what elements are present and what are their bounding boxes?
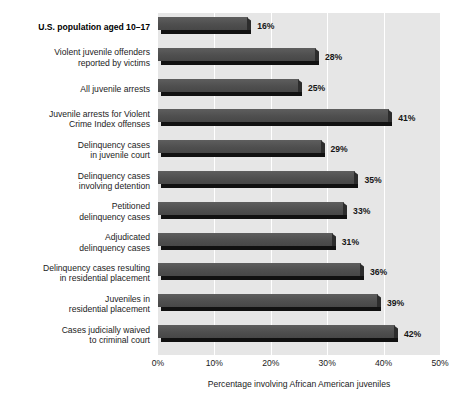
x-tick-label: 30%: [319, 358, 336, 368]
x-tick-label: 40%: [375, 358, 392, 368]
category-label: Adjudicated delinquency cases: [0, 232, 150, 253]
bar-face: [158, 109, 389, 122]
bar-row: All juvenile arrests25%: [0, 75, 474, 105]
category-label: Cases judicially waived to criminal cour…: [0, 325, 150, 346]
bar-chart: U.S. population aged 10–1716%Violent juv…: [0, 0, 474, 412]
bar-row: Cases judicially waived to criminal cour…: [0, 321, 474, 351]
bar-value-label: 41%: [398, 113, 415, 123]
bar-row: Juvenile arrests for Violent Crime Index…: [0, 105, 474, 135]
bar-face: [158, 171, 355, 184]
bar-face: [158, 79, 299, 92]
bar-row: Adjudicated delinquency cases31%: [0, 229, 474, 259]
bar-face: [158, 263, 361, 276]
x-tick-label: 20%: [262, 358, 279, 368]
bar-value-label: 31%: [342, 237, 359, 247]
bar-shadow: [161, 153, 325, 157]
bar: [158, 79, 299, 96]
bar-face: [158, 202, 344, 215]
bar-face: [158, 294, 378, 307]
bar-value-label: 16%: [257, 21, 274, 31]
bar-value-label: 42%: [404, 329, 421, 339]
bar: [158, 48, 316, 65]
bar: [158, 17, 248, 34]
bar: [158, 294, 378, 311]
bar-row: Juveniles in residential placement39%: [0, 290, 474, 320]
bar-row: Delinquency cases involving detention35%: [0, 167, 474, 197]
bar-shadow: [161, 92, 302, 96]
bar-shadow: [161, 246, 336, 250]
bar: [158, 263, 361, 280]
category-label: Delinquency cases in juvenile court: [0, 140, 150, 161]
bar-face: [158, 140, 322, 153]
category-label: Delinquency cases involving detention: [0, 171, 150, 192]
bar-shadow: [161, 215, 347, 219]
bar: [158, 325, 395, 342]
category-label: Juvenile arrests for Violent Crime Index…: [0, 109, 150, 130]
category-label: Petitioned delinquency cases: [0, 201, 150, 222]
category-label: Violent juvenile offenders reported by v…: [0, 47, 150, 68]
bar-value-label: 28%: [325, 52, 342, 62]
bar-value-label: 36%: [370, 267, 387, 277]
bar-row: Petitioned delinquency cases33%: [0, 198, 474, 228]
bar-shadow: [161, 338, 398, 342]
bar-face: [158, 325, 395, 338]
bar-row: Delinquency cases in juvenile court29%: [0, 136, 474, 166]
category-label: Juveniles in residential placement: [0, 294, 150, 315]
bar: [158, 233, 333, 250]
bar-face: [158, 17, 248, 30]
bar-face: [158, 233, 333, 246]
category-label: U.S. population aged 10–17: [0, 22, 150, 32]
x-axis-title: Percentage involving African American ju…: [158, 379, 440, 389]
bar: [158, 140, 322, 157]
bar-face: [158, 48, 316, 61]
bar: [158, 171, 355, 188]
bar: [158, 202, 344, 219]
bar-shadow: [161, 61, 319, 65]
bar-value-label: 35%: [364, 175, 381, 185]
bar-shadow: [161, 30, 251, 34]
bar-shadow: [161, 184, 358, 188]
bar-value-label: 25%: [308, 83, 325, 93]
bar-row: Delinquency cases resulting in residenti…: [0, 259, 474, 289]
x-tick-label: 0%: [152, 358, 164, 368]
bar-value-label: 39%: [387, 298, 404, 308]
bar-row: U.S. population aged 10–1716%: [0, 13, 474, 43]
bar-shadow: [161, 276, 364, 280]
bar-value-label: 29%: [331, 144, 348, 154]
bar-shadow: [161, 307, 381, 311]
x-tick-label: 10%: [206, 358, 223, 368]
category-label: All juvenile arrests: [0, 84, 150, 94]
x-axis-tick-labels: 0%10%20%30%40%50%: [0, 358, 474, 372]
category-label: Delinquency cases resulting in residenti…: [0, 263, 150, 284]
bar-shadow: [161, 122, 392, 126]
bar: [158, 109, 389, 126]
bar-value-label: 33%: [353, 206, 370, 216]
x-tick-label: 50%: [431, 358, 448, 368]
bar-row: Violent juvenile offenders reported by v…: [0, 44, 474, 74]
